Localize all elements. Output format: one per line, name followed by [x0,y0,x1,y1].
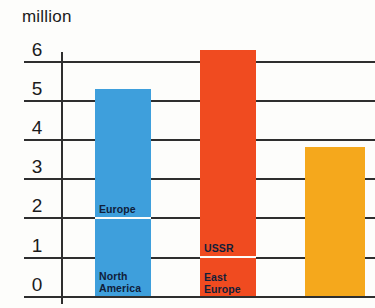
red-bar-label-ussr: USSR [204,243,254,255]
red-bar-label-europe: Europe [204,284,254,296]
red-bar-label-east: East [204,272,254,284]
blue-bar-label-north: North [99,271,149,283]
red-bar-segment-ussr[interactable]: USSR [200,50,256,256]
blue-bar-segment-north-america[interactable]: North America [95,219,151,296]
red-bar-segment-east-europe[interactable]: East Europe [200,258,256,296]
blue-bar-segment-europe[interactable]: Europe [95,89,151,217]
y-tick-label-3: 3 [24,156,50,179]
gridline-0-baseline [24,296,375,298]
red-bar-label-east-europe: East Europe [204,272,254,295]
blue-bar-label-europe: Europe [99,204,149,216]
yellow-bar-segment[interactable] [305,147,365,296]
blue-bar-label-america: America [99,283,149,295]
bar-chart: million 6 5 4 3 2 1 0 Europe North [0,0,375,308]
y-axis-line [61,52,63,304]
red-bar[interactable]: USSR East Europe [200,50,256,296]
plot-area: 6 5 4 3 2 1 0 Europe North America USSR [0,0,375,308]
y-tick-label-1: 1 [24,235,50,258]
y-tick-label-6: 6 [24,39,50,62]
blue-bar-label-north-america: North America [99,271,149,294]
y-tick-label-4: 4 [24,117,50,140]
y-tick-label-2: 2 [24,195,50,218]
y-tick-label-0: 0 [24,274,50,297]
blue-bar[interactable]: Europe North America [95,89,151,296]
yellow-bar[interactable] [305,147,365,296]
y-tick-label-5: 5 [24,78,50,101]
